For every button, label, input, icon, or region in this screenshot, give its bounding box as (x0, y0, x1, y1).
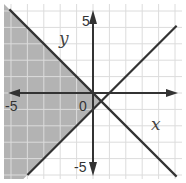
x-neg-tick-label: -5 (5, 98, 18, 114)
x-axis-label: x (151, 114, 161, 134)
y-axis-label: y (58, 28, 69, 48)
inequality-graph: -5 5 -5 0 x y (0, 0, 186, 183)
origin-label: 0 (79, 98, 87, 114)
y-pos-tick-label: 5 (82, 13, 90, 29)
y-neg-tick-label: -5 (74, 159, 87, 175)
